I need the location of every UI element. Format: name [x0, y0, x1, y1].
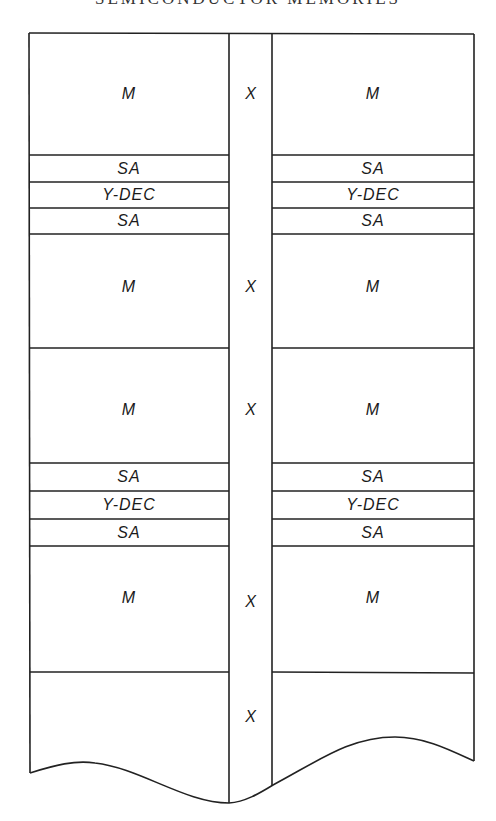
memory-array-label: M — [366, 401, 380, 419]
memory-array-label: M — [122, 278, 136, 296]
memory-array-label: M — [366, 85, 380, 103]
sense-amp-label: SA — [361, 212, 384, 230]
x-decoder-label: X — [245, 593, 257, 611]
x-decoder-label: X — [245, 278, 257, 296]
sense-amp-label: SA — [117, 212, 140, 230]
memory-array-label: M — [122, 401, 136, 419]
memory-array-label: M — [122, 589, 136, 607]
memory-array-label: M — [366, 278, 380, 296]
y-decoder-label: Y-DEC — [346, 186, 400, 204]
memory-array-label: M — [122, 85, 136, 103]
y-decoder-label: Y-DEC — [102, 186, 156, 204]
sense-amp-label: SA — [117, 468, 140, 486]
y-decoder-label: Y-DEC — [346, 496, 400, 514]
x-decoder-label: X — [245, 85, 257, 103]
x-decoder-label: X — [245, 708, 257, 726]
sense-amp-label: SA — [361, 160, 384, 178]
sense-amp-label: SA — [117, 524, 140, 542]
y-decoder-label: Y-DEC — [102, 496, 156, 514]
x-decoder-label: X — [245, 401, 257, 419]
memory-array-label: M — [366, 589, 380, 607]
sense-amp-label: SA — [361, 468, 384, 486]
sense-amp-label: SA — [361, 524, 384, 542]
sense-amp-label: SA — [117, 160, 140, 178]
